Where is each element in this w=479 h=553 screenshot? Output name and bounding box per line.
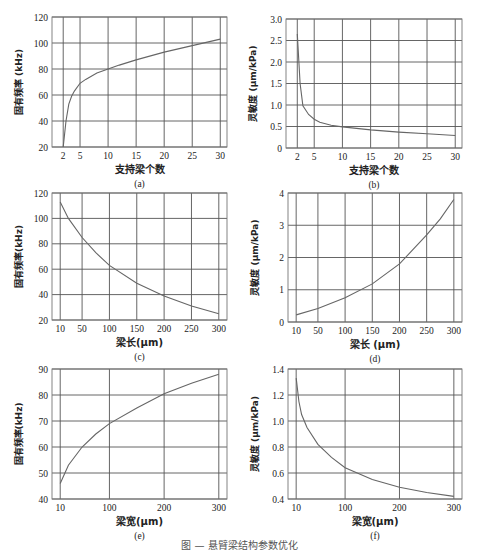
x-axis-label: 梁宽(μm) <box>351 515 399 527</box>
y-tick-label: 1.2 <box>272 391 284 401</box>
data-curve <box>296 378 454 496</box>
x-axis-label: 梁宽(μm) <box>115 515 163 527</box>
y-tick-label: 120 <box>34 189 49 199</box>
y-axis-label: 灵敏度 (μm/kPa) <box>249 396 260 473</box>
y-tick-label: 4 <box>279 189 284 199</box>
y-tick-label: 80 <box>39 239 49 249</box>
plot-frame <box>52 17 227 147</box>
x-tick-label: 200 <box>157 503 172 513</box>
x-tick-label: 20 <box>159 151 169 161</box>
x-tick-label: 10 <box>291 503 301 513</box>
figure-caption: 图 — 悬臂梁结构参数优化 <box>0 537 479 552</box>
data-curve <box>63 39 220 147</box>
y-tick-label: 50 <box>39 469 49 479</box>
x-tick-label: 300 <box>212 503 227 513</box>
chart-panel-c: 105010015020025030020406080100120梁长(μm)固… <box>0 180 240 360</box>
y-tick-label: 1 <box>279 285 284 295</box>
line-chart-d: 105010015020025030001234梁长 (μm)灵敏度 (μm/k… <box>240 180 479 360</box>
x-tick-label: 5 <box>312 152 317 162</box>
y-tick-label: 100 <box>34 39 49 49</box>
x-tick-label: 100 <box>338 503 353 513</box>
x-tick-label: 300 <box>212 324 227 334</box>
y-tick-label: 2.0 <box>270 58 282 68</box>
y-axis-label: 灵敏度 (μm/kPa) <box>249 219 260 296</box>
x-tick-label: 200 <box>392 326 407 336</box>
plot-frame <box>52 193 227 320</box>
y-axis-label: 固有频率 (kHz) <box>13 49 24 115</box>
chart-panel-b: 25101520253000.51.01.52.02.53.0支持梁个数灵敏度 … <box>240 0 479 180</box>
y-tick-label: 1.0 <box>272 417 284 427</box>
x-tick-label: 100 <box>338 326 353 336</box>
y-tick-label: 1.4 <box>272 365 284 375</box>
y-tick-label: 80 <box>39 65 49 75</box>
y-tick-label: 0.4 <box>272 495 284 505</box>
y-tick-label: 0 <box>277 144 282 154</box>
x-tick-label: 20 <box>394 152 404 162</box>
y-axis-label: 灵敏度 (μm/kPa) <box>247 45 258 122</box>
y-tick-label: 0.6 <box>272 469 284 479</box>
y-tick-label: 100 <box>34 214 49 224</box>
chart-panel-f: 101002003000.40.60.81.01.21.4梁宽(μm)灵敏度 (… <box>240 360 479 535</box>
plot-frame <box>288 369 462 499</box>
x-axis-label: 支持梁个数 <box>114 163 166 175</box>
x-tick-label: 100 <box>102 503 117 513</box>
y-tick-label: 2.5 <box>270 36 282 46</box>
x-tick-label: 10 <box>103 151 113 161</box>
line-chart-f: 101002003000.40.60.81.01.21.4梁宽(μm)灵敏度 (… <box>240 360 479 535</box>
y-tick-label: 60 <box>39 91 49 101</box>
y-tick-label: 70 <box>39 417 49 427</box>
x-tick-label: 150 <box>130 324 145 334</box>
x-tick-label: 300 <box>447 326 462 336</box>
chart-panel-d: 105010015020025030001234梁长 (μm)灵敏度 (μm/k… <box>240 180 479 360</box>
data-curve <box>60 374 219 483</box>
y-tick-label: 60 <box>39 443 49 453</box>
x-axis-label: 梁长(μm) <box>115 336 163 348</box>
y-tick-label: 40 <box>39 495 49 505</box>
x-tick-label: 5 <box>78 151 83 161</box>
x-tick-label: 15 <box>131 151 141 161</box>
data-curve <box>297 34 455 136</box>
x-tick-label: 2 <box>295 152 300 162</box>
x-tick-label: 2 <box>61 151 66 161</box>
x-tick-label: 10 <box>55 324 65 334</box>
x-tick-label: 200 <box>157 324 172 334</box>
x-tick-label: 250 <box>184 324 199 334</box>
x-tick-label: 25 <box>422 152 432 162</box>
x-tick-label: 25 <box>187 151 197 161</box>
y-axis-label: 固有频率(kHz) <box>13 403 24 466</box>
y-tick-label: 20 <box>39 143 49 153</box>
y-tick-label: 3.0 <box>270 15 282 25</box>
x-tick-label: 15 <box>366 152 376 162</box>
x-axis-label: 梁长 (μm) <box>349 338 400 350</box>
x-tick-label: 30 <box>450 152 460 162</box>
x-tick-label: 50 <box>77 324 87 334</box>
y-tick-label: 0 <box>279 318 284 328</box>
chart-panel-a: 25101520253020406080100120支持梁个数固有频率 (kHz… <box>0 0 240 180</box>
x-tick-label: 300 <box>447 503 462 513</box>
x-tick-label: 150 <box>365 326 380 336</box>
line-chart-e: 10100200300405060708090梁宽(μm)固有频率(kHz)(e… <box>0 360 240 535</box>
x-tick-label: 100 <box>102 324 117 334</box>
x-tick-label: 50 <box>313 326 323 336</box>
y-tick-label: 40 <box>39 117 49 127</box>
y-axis-label: 固有频率(kHz) <box>13 225 24 288</box>
line-chart-b: 25101520253000.51.01.52.02.53.0支持梁个数灵敏度 … <box>240 0 479 180</box>
x-tick-label: 30 <box>216 151 226 161</box>
line-chart-a: 25101520253020406080100120支持梁个数固有频率 (kHz… <box>0 0 240 180</box>
y-tick-label: 3 <box>279 221 284 231</box>
y-tick-label: 0.8 <box>272 443 284 453</box>
y-tick-label: 0.5 <box>270 122 282 132</box>
y-tick-label: 1.0 <box>270 101 282 111</box>
line-chart-c: 105010015020025030020406080100120梁长(μm)固… <box>0 180 240 360</box>
x-tick-label: 10 <box>55 503 65 513</box>
plot-frame <box>52 369 227 499</box>
y-tick-label: 120 <box>34 13 49 23</box>
y-tick-label: 80 <box>39 391 49 401</box>
y-tick-label: 2 <box>279 253 284 263</box>
y-tick-label: 40 <box>39 290 49 300</box>
x-tick-label: 250 <box>420 326 435 336</box>
chart-panel-e: 10100200300405060708090梁宽(μm)固有频率(kHz)(e… <box>0 360 240 535</box>
y-tick-label: 20 <box>39 316 49 326</box>
y-tick-label: 60 <box>39 265 49 275</box>
x-tick-label: 10 <box>291 326 301 336</box>
